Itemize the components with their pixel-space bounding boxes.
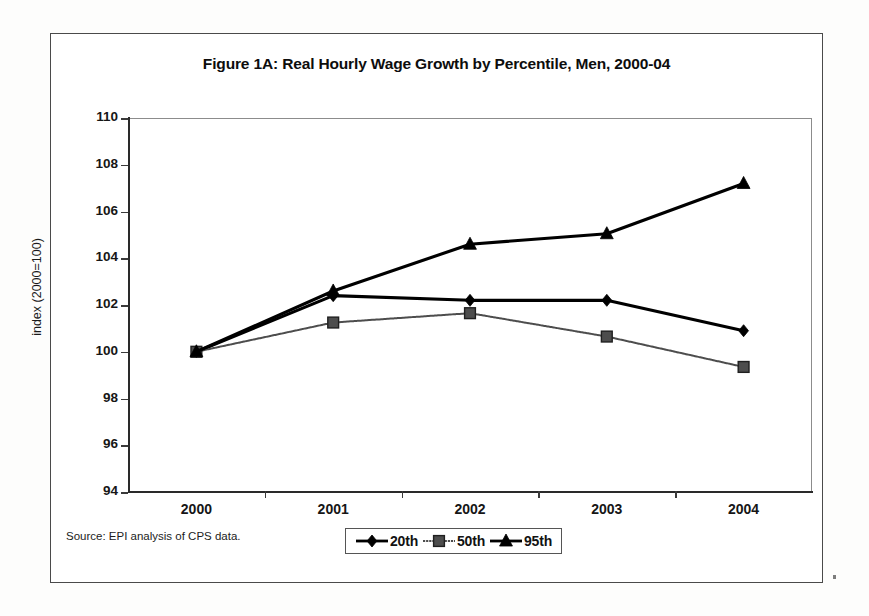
series-line-95th bbox=[196, 183, 743, 351]
y-axis-title: index (2000=100) bbox=[30, 192, 44, 382]
figure-title: Figure 1A: Real Hourly Wage Growth by Pe… bbox=[50, 55, 823, 73]
square-marker bbox=[738, 362, 749, 373]
y-axis-line bbox=[128, 117, 130, 493]
y-axis-tick-label: 110 bbox=[72, 109, 118, 124]
legend-entry-95th: 95th bbox=[489, 533, 552, 549]
square-marker bbox=[601, 331, 612, 342]
y-axis-tick-mark bbox=[121, 118, 128, 120]
legend-entry-20th: 20th bbox=[355, 533, 418, 549]
legend-label: 20th bbox=[390, 533, 418, 549]
series-95th bbox=[190, 176, 750, 356]
x-axis-tick-mark bbox=[402, 491, 404, 498]
y-axis-tick-mark bbox=[121, 212, 128, 214]
square-marker bbox=[465, 308, 476, 319]
x-axis-tick-label: 2003 bbox=[567, 501, 647, 517]
x-axis-tick-mark bbox=[538, 491, 540, 498]
y-axis-tick-mark bbox=[121, 352, 128, 354]
square-marker bbox=[434, 536, 445, 547]
x-axis-tick-label: 2001 bbox=[293, 501, 373, 517]
y-axis-tick-label: 100 bbox=[72, 343, 118, 358]
chart-plot bbox=[128, 118, 812, 492]
diamond-marker bbox=[355, 534, 389, 548]
y-axis-tick-label: 94 bbox=[72, 483, 118, 498]
square-marker bbox=[422, 534, 456, 548]
legend-entry-50th: 50th bbox=[422, 533, 485, 549]
x-axis-tick-mark bbox=[675, 491, 677, 498]
diamond-marker bbox=[739, 325, 749, 337]
x-axis-tick-mark bbox=[265, 491, 267, 498]
series-line-50th bbox=[196, 313, 743, 367]
y-axis-tick-label: 102 bbox=[72, 296, 118, 311]
y-axis-tick-mark bbox=[121, 445, 128, 447]
scan-artifact-speck bbox=[833, 575, 836, 579]
source-note: Source: EPI analysis of CPS data. bbox=[66, 530, 241, 542]
x-axis-tick-label: 2002 bbox=[430, 501, 510, 517]
triangle-marker bbox=[489, 534, 523, 548]
y-axis-tick-label: 104 bbox=[72, 249, 118, 264]
legend-label: 50th bbox=[457, 533, 485, 549]
x-axis-tick-label: 2004 bbox=[704, 501, 784, 517]
x-axis-line bbox=[128, 491, 813, 493]
diamond-marker bbox=[602, 294, 612, 306]
y-axis-tick-label: 106 bbox=[72, 203, 118, 218]
y-axis-tick-mark bbox=[121, 305, 128, 307]
square-marker bbox=[328, 317, 339, 328]
y-axis-tick-label: 96 bbox=[72, 436, 118, 451]
y-axis-tick-mark bbox=[121, 399, 128, 401]
legend-label: 95th bbox=[524, 533, 552, 549]
x-axis-tick-label: 2000 bbox=[156, 501, 236, 517]
diamond-marker bbox=[367, 535, 377, 547]
y-axis-tick-mark bbox=[121, 492, 128, 494]
diamond-marker bbox=[465, 294, 475, 306]
y-axis-tick-label: 98 bbox=[72, 390, 118, 405]
y-axis-tick-labels: 110108106104102100989694 bbox=[66, 0, 118, 616]
chart-legend: 20th50th95th bbox=[345, 528, 562, 554]
y-axis-tick-mark bbox=[121, 258, 128, 260]
series-20th bbox=[191, 290, 748, 358]
y-axis-tick-label: 108 bbox=[72, 156, 118, 171]
y-axis-tick-mark bbox=[121, 165, 128, 167]
triangle-marker bbox=[737, 176, 750, 188]
